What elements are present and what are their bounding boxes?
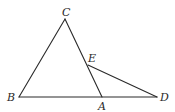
label-B: B [6, 91, 15, 104]
segment-CA [65, 19, 102, 97]
geometry-diagram: C B A D E [0, 0, 175, 112]
label-C: C [62, 6, 71, 19]
label-D: D [159, 91, 169, 104]
segment-ED [88, 65, 157, 97]
segment-CB [19, 19, 65, 97]
label-A: A [97, 100, 106, 112]
label-E: E [87, 52, 96, 65]
